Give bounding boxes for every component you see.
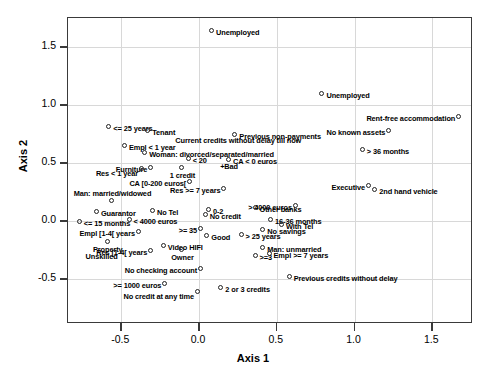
data-point-label: No known assets [326,129,385,138]
data-point-label: Unemployed [216,29,259,38]
data-point-label: No Tel [157,209,178,218]
data-point-label: Unskilled [42,253,162,262]
data-point-label: > 36 months [367,148,409,157]
x-axis-tick-label: -0.5 [100,333,140,345]
data-point-label: Video HIFI [168,244,203,253]
data-point[interactable] [195,289,200,294]
data-point-label: Unemployed [326,92,369,101]
data-point-label: No checking account [125,267,197,276]
data-point[interactable] [136,229,141,234]
y-axis-tick-label: 1.0 [22,97,56,109]
data-point-label: Previous credits without delay [294,275,398,284]
data-point-label: 2nd hand vehicle [379,188,437,197]
data-point[interactable] [187,179,192,184]
x-axis-tick [198,323,200,331]
gridline-horizontal [68,47,471,48]
y-axis-tick [60,162,68,164]
data-point[interactable] [139,166,144,171]
data-point-label: Res < 1 year [96,170,138,179]
data-point[interactable] [198,266,203,271]
y-axis-tick-label: 0.0 [22,213,56,225]
data-point-label: Empl >= 7 years [274,252,329,261]
x-axis-tick [276,323,278,331]
x-axis-tick-label: 0.5 [256,333,296,345]
data-point[interactable] [186,156,191,161]
data-point-label: > 4000 euros [248,204,292,213]
data-point[interactable] [150,208,155,213]
data-point-label: > 25 years [246,233,281,242]
y-axis-tick [60,104,68,106]
data-point[interactable] [239,232,244,237]
data-point[interactable] [293,203,298,208]
data-point-label: < 4000 euros [134,218,178,227]
data-point[interactable] [253,253,258,258]
data-point[interactable] [456,114,461,119]
data-point-label: 2 or 3 credits [225,286,270,295]
y-axis-tick-label: 0.5 [22,155,56,167]
data-point[interactable] [386,128,391,133]
data-point-label: Rent-free accommodation [366,115,455,124]
data-point-label: Current credits without delay till now [175,137,295,146]
gridline-vertical [432,18,433,322]
x-axis-tick-label: 1.5 [411,333,451,345]
data-point-label: Tenant [152,129,175,138]
data-point[interactable] [209,28,214,33]
gridline-horizontal [68,279,471,280]
x-axis-title: Axis 1 [198,352,308,364]
data-point-label: Res >= 7 years [170,187,220,196]
data-point[interactable] [145,128,150,133]
data-point-label: Executive [331,184,365,193]
data-point[interactable] [105,239,110,244]
y-axis-tick [60,46,68,48]
y-axis-tick [60,220,68,222]
y-axis-tick-label: -0.5 [22,271,56,283]
data-point-label: >= 1000 euros [113,282,161,291]
data-point[interactable] [127,217,132,222]
data-point[interactable] [287,274,292,279]
x-axis-tick [354,323,356,331]
x-axis-tick-label: 0.0 [178,333,218,345]
data-point[interactable] [161,243,166,248]
y-axis-tick-label: 1.5 [22,39,56,51]
data-point-label: Good [211,234,230,243]
data-point-label: Man: married/widowed [62,190,162,199]
data-point[interactable] [94,209,99,214]
data-point[interactable] [279,222,284,227]
data-point-label: No credit [210,213,241,222]
gridline-horizontal [68,105,471,106]
data-point[interactable] [122,143,127,148]
data-point[interactable] [226,157,231,162]
data-point[interactable] [142,150,147,155]
y-axis-tick [60,278,68,280]
data-point-label: <= 15 months [84,220,130,229]
data-point-label: >= 35 [179,227,197,236]
x-axis-tick [431,323,433,331]
data-point-label: No credit at any time [123,293,194,302]
data-point[interactable] [267,251,272,256]
data-point[interactable] [206,207,211,212]
data-point-label: +Bad [169,163,289,172]
scatter-plot-figure: Axis 2 Axis 1 1.51.00.50.0-0.5-0.50.00.5… [0,0,492,377]
x-axis-tick [120,323,122,331]
x-axis-tick-label: 1.0 [334,333,374,345]
data-point-label: Empl [1-4[ years [79,230,135,239]
